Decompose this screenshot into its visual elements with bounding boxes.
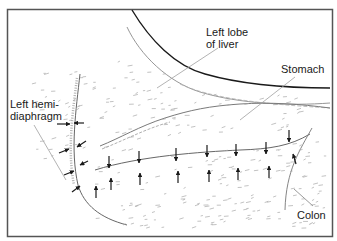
figure-frame [8, 10, 333, 237]
texture-dash [137, 204, 141, 205]
texture-dash [228, 198, 232, 199]
texture-dash [175, 108, 178, 109]
texture-dash [220, 219, 223, 220]
texture-dash [123, 209, 125, 210]
texture-dash [175, 169, 177, 170]
texture-dash [205, 216, 210, 217]
texture-dash [74, 72, 77, 73]
texture-dash [197, 203, 200, 204]
texture-dash [176, 125, 180, 126]
texture-dash [281, 170, 285, 171]
texture-dash [168, 134, 171, 135]
texture-dash [286, 126, 288, 127]
texture-dash [143, 215, 146, 216]
texture-dash [210, 208, 214, 209]
texture-dash [212, 161, 215, 162]
texture-dash [316, 201, 318, 202]
texture-dash [297, 112, 299, 113]
texture-dash [297, 108, 301, 109]
texture-dash [282, 118, 284, 119]
texture-dash [210, 170, 213, 171]
texture-dash [100, 116, 104, 117]
texture-dash [146, 182, 148, 183]
texture-dash [115, 132, 119, 133]
texture-dash [132, 79, 135, 80]
texture-dash [204, 206, 209, 207]
texture-dash [192, 227, 196, 228]
texture-dash [299, 145, 301, 146]
texture-dash [206, 200, 209, 201]
texture-dash [148, 99, 153, 100]
texture-dash [78, 105, 82, 106]
texture-dash [184, 187, 186, 188]
texture-dash [254, 170, 258, 171]
stomach-fold-2 [102, 122, 170, 149]
texture-dash [128, 149, 133, 150]
texture-dash [164, 193, 166, 194]
texture-dash [276, 170, 281, 171]
label-stomach: Stomach [281, 63, 324, 75]
texture-dash [271, 123, 276, 124]
texture-dash [172, 117, 176, 118]
texture-dash [87, 127, 90, 128]
texture-dash [303, 159, 305, 160]
label-left-hemidiaphragm: Left hemi- diaphragm [10, 98, 62, 122]
texture-dash [231, 128, 234, 129]
arrow-diaphragm [72, 186, 80, 192]
texture-dash [65, 145, 68, 146]
stomach-wall [95, 134, 310, 170]
texture-dash [281, 127, 284, 128]
diaphragm-curve [74, 74, 127, 225]
texture-dash [131, 223, 134, 224]
texture-dash [194, 102, 196, 103]
texture-dash [84, 83, 88, 84]
texture-dash [129, 218, 134, 219]
texture-dash [106, 99, 109, 100]
texture-dash [179, 218, 183, 219]
texture-dash [293, 143, 297, 144]
arrow-diaphragm [59, 149, 69, 153]
texture-dash [248, 218, 252, 219]
texture-dash [101, 188, 105, 189]
texture-dash [299, 111, 304, 112]
texture-dash [244, 186, 248, 187]
texture-dash [68, 106, 70, 107]
texture-dash [65, 103, 69, 104]
texture-dash [133, 94, 138, 95]
texture-dash [299, 149, 303, 150]
texture-dash [240, 202, 244, 203]
texture-dash [146, 227, 150, 228]
texture-dash [118, 172, 120, 173]
texture-dash [278, 129, 282, 130]
texture-dash [223, 221, 225, 222]
texture-dash [122, 132, 126, 133]
texture-dash [137, 138, 141, 139]
texture-dash [286, 102, 291, 103]
texture-dash [183, 202, 186, 203]
texture-dash [77, 108, 79, 109]
texture-dash [312, 187, 314, 188]
texture-dash [74, 99, 76, 100]
texture-dash [214, 159, 218, 160]
texture-dash [52, 138, 57, 139]
texture-dash [301, 204, 304, 205]
texture-dash [257, 210, 260, 211]
label-colon: Colon [297, 209, 326, 221]
texture-dash [251, 195, 254, 196]
texture-dash [211, 115, 214, 116]
texture-dash [322, 176, 326, 177]
texture-dash [157, 206, 160, 207]
stomach-fold [100, 103, 330, 146]
texture-dash [223, 200, 227, 201]
liver-leader-line [157, 48, 218, 88]
texture-dash [232, 210, 236, 211]
texture-dash [154, 98, 157, 99]
texture-dash [309, 224, 311, 225]
texture-dash [138, 105, 140, 106]
texture-dash [191, 126, 195, 127]
texture-dash [129, 137, 134, 138]
colon-leader-line [294, 189, 313, 206]
texture-dash [245, 170, 249, 171]
texture-dash [105, 111, 108, 112]
texture-dash [83, 147, 86, 148]
